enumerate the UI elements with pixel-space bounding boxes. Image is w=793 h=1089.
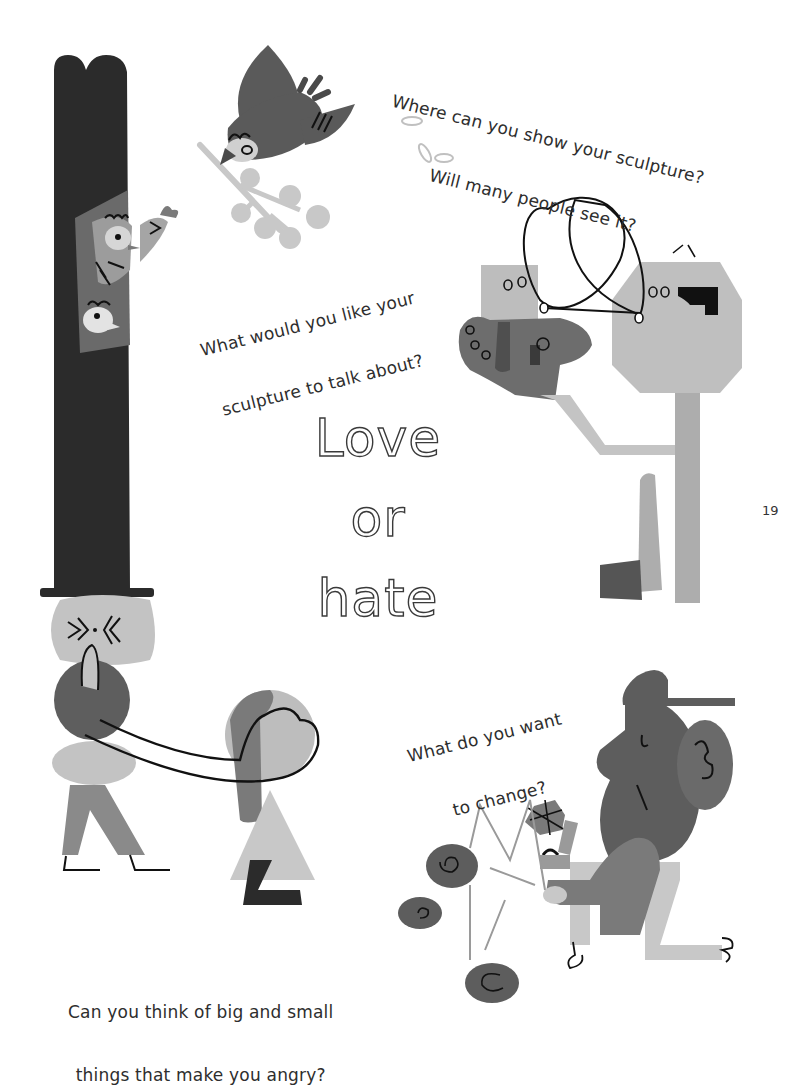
two-heads-figure-illustration: [459, 198, 742, 603]
prompt-line: Can you think of big and small: [68, 1002, 333, 1023]
prompt-line: What would you like your: [198, 287, 417, 361]
prompt-line: things that make you angry?: [68, 1065, 333, 1086]
prompt-line: What do you want: [405, 708, 564, 767]
title-love: Love: [268, 408, 488, 468]
tall-hat-illustration: [40, 55, 178, 597]
title-or: or: [268, 488, 488, 548]
title-hate: hate: [268, 568, 488, 628]
prompt-angry: Can you think of big and small things th…: [68, 960, 333, 1089]
hand-on-head-figure-illustration: [51, 595, 318, 905]
page-number: 19: [762, 503, 779, 518]
